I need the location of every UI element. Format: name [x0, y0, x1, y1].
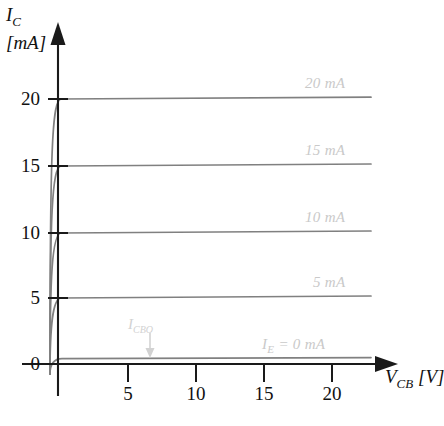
y-axis-arrowhead	[51, 22, 66, 45]
icbo-subscript: CBO	[133, 324, 153, 335]
curve-label-10ma: 10 mA	[305, 209, 345, 226]
y-axis-title-sub: C	[12, 14, 21, 29]
x-axis-title-sub: CB	[397, 376, 414, 391]
y-tick-label-20: 20	[0, 88, 40, 110]
x-tick-label-10: 10	[181, 383, 211, 405]
curve-20mA	[50, 97, 371, 374]
x-tick-marks	[128, 364, 332, 382]
x-tick-label-5: 5	[113, 383, 143, 405]
x-axis-title-unit: [V]	[418, 366, 444, 387]
y-axis-title: IC [mA]	[6, 4, 46, 53]
curve-group	[50, 97, 371, 374]
y-tick-label-15: 15	[0, 155, 40, 177]
x-tick-label-15: 15	[249, 383, 279, 405]
curve-label-0ma-value: = 0 mA	[274, 336, 325, 352]
curve-label-0ma: IE = 0 mA	[262, 336, 325, 355]
curve-label-15ma: 15 mA	[305, 142, 345, 159]
y-axis-title-unit: [mA]	[6, 32, 46, 53]
x-tick-label-20: 20	[317, 383, 347, 405]
x-axis-title: VCB [V]	[385, 366, 444, 394]
curve-0mA	[50, 358, 371, 374]
curve-label-5ma: 5 mA	[313, 274, 345, 291]
curve-5mA	[50, 296, 371, 374]
y-tick-label-5: 5	[0, 287, 40, 309]
icbo-annotation-label: ICBO	[128, 316, 153, 335]
icbo-arrow	[146, 333, 155, 358]
curve-label-20ma: 20 mA	[305, 75, 345, 92]
x-axis-title-main: V	[385, 366, 397, 387]
y-tick-label-10: 10	[0, 222, 40, 244]
y-tick-label-0: 0	[0, 353, 40, 375]
